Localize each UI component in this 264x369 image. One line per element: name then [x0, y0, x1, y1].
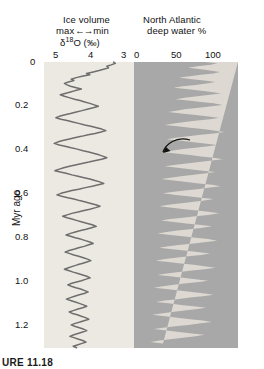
- left-panel-background: [44, 62, 134, 348]
- right-panel-group: [134, 62, 238, 348]
- paleoclimate-figure: Ice volume max←→min δ18O (‰) North Atlan…: [0, 0, 264, 369]
- left-panel-group: [44, 62, 134, 348]
- chart-canvas: [0, 0, 264, 369]
